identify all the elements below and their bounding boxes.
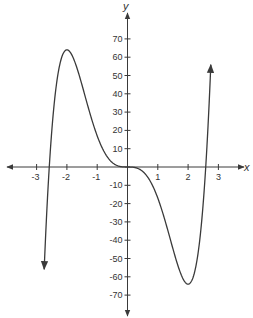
y-tick-label: 10 bbox=[112, 144, 122, 154]
y-tick-label: 40 bbox=[112, 89, 122, 99]
y-tick-label: -40 bbox=[109, 235, 122, 245]
x-tick-label: -2 bbox=[62, 172, 70, 182]
y-tick-label: -60 bbox=[109, 272, 122, 282]
x-tick-label: -3 bbox=[32, 172, 40, 182]
y-tick-label: 50 bbox=[112, 71, 122, 81]
x-tick-label: 3 bbox=[216, 172, 221, 182]
x-axis-label: x bbox=[243, 161, 250, 173]
y-tick-label: -50 bbox=[109, 254, 122, 264]
y-axis-label: y bbox=[122, 0, 130, 12]
function-graph: -3-2-112370605040302010-10-20-30-40-50-6… bbox=[0, 0, 253, 318]
y-tick-label: -10 bbox=[109, 180, 122, 190]
y-tick-label: 70 bbox=[112, 34, 122, 44]
y-tick-label: -20 bbox=[109, 199, 122, 209]
y-tick-label: -70 bbox=[109, 290, 122, 300]
axes bbox=[7, 13, 244, 316]
y-tick-label: 20 bbox=[112, 125, 122, 135]
y-tick-label: -30 bbox=[109, 217, 122, 227]
y-tick-label: 30 bbox=[112, 107, 122, 117]
y-tick-label: 60 bbox=[112, 52, 122, 62]
x-tick-label: 2 bbox=[186, 172, 191, 182]
x-tick-label: -1 bbox=[92, 172, 100, 182]
x-tick-label: 1 bbox=[155, 172, 160, 182]
